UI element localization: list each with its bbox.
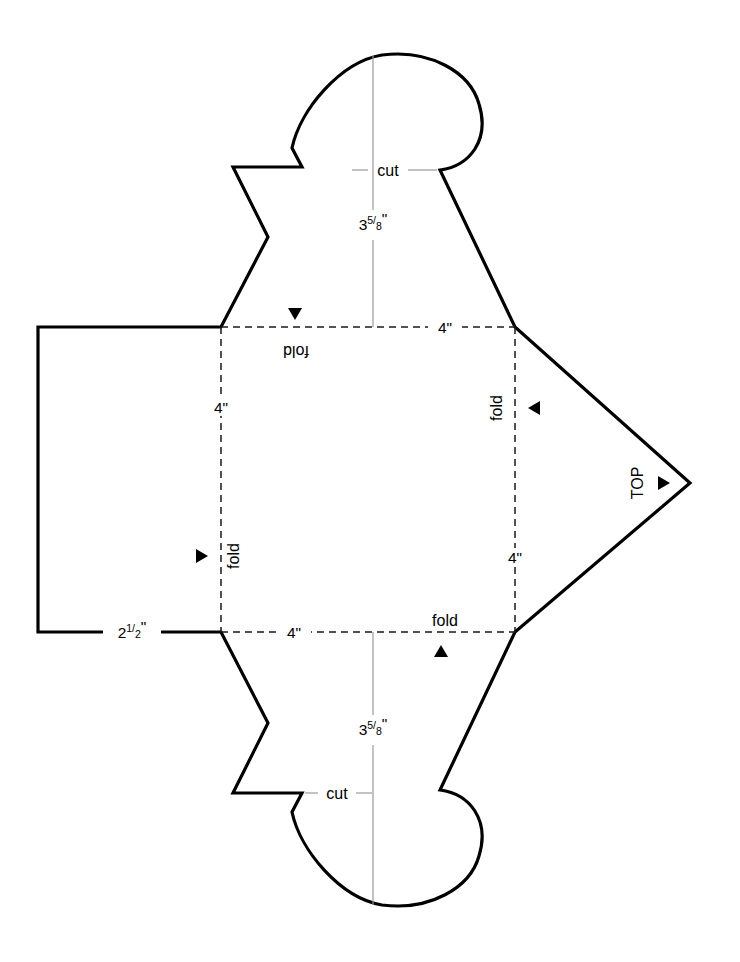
triangle-down-icon-top [288,308,302,320]
dimension-square-right: 4" [508,549,522,566]
dim-flap-whole: 2 [118,624,127,641]
dimension-label-top: 35/8" [359,210,388,233]
dim-flap-unit: " [141,618,147,635]
triangle-left-icon-right [528,401,540,415]
dimension-square-top: 4" [438,319,452,336]
svg-text:35/8": 35/8" [359,715,388,738]
dim-bottom-whole: 3 [359,721,368,738]
dim-top-unit: " [382,210,388,227]
fold-label-right-group: fold [488,395,505,421]
fold-label-right: fold [488,395,505,421]
cut-label-top: cut [377,162,399,179]
fold-label-top: fold [283,343,309,360]
top-label: TOP [629,467,646,500]
triangle-right-icon-top-point [658,476,670,490]
triangle-up-icon-bottom [434,645,448,657]
fold-label-bottom: fold [432,612,458,629]
fold-label-left: fold [225,543,242,569]
pattern-diagram-root: cut cut 35/8" 35/8" 4" 4" 4" 4" [0,0,740,962]
top-label-group: TOP [629,467,646,500]
dimension-square-bottom: 4" [287,624,301,641]
cut-label-bottom: cut [326,785,348,802]
triangle-right-icon-left [196,549,208,563]
dimension-label-bottom: 35/8" [359,715,388,738]
dim-bottom-unit: " [382,715,388,732]
folding-pattern-svg: cut cut 35/8" 35/8" 4" 4" 4" 4" [0,0,740,962]
dimension-square-left: 4" [214,399,228,416]
fold-label-top-group: fold [283,343,309,360]
svg-text:35/8": 35/8" [359,210,388,233]
dim-top-whole: 3 [359,216,368,233]
fold-label-left-group: fold [225,543,242,569]
cut-outline-path [38,54,690,906]
